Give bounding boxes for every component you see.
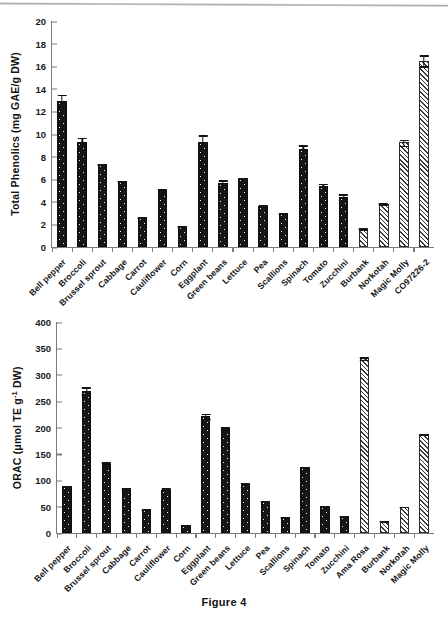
bar-cauliflower <box>158 190 167 247</box>
y-axis-tick-label: 20 <box>35 16 52 27</box>
error-bar <box>61 95 62 108</box>
bar-burbank <box>380 521 389 533</box>
x-axis-label-slot: Brussel sprout <box>91 254 111 255</box>
x-axis-label-slot: Brussel sprout <box>96 540 116 541</box>
y-axis-label-orac: ORAC (μmol TE g-1 DW) <box>10 320 24 535</box>
error-bar <box>222 180 223 188</box>
bar-bell-pepper <box>62 486 71 533</box>
x-axis-label-slot: Cabbage <box>111 254 131 255</box>
bar-slot <box>414 322 434 533</box>
error-bar <box>423 434 424 436</box>
bar-brussel-sprout <box>98 164 107 247</box>
bar-ama-rosa <box>360 358 369 533</box>
bar-co97226-2 <box>419 61 428 247</box>
bar-slot <box>394 21 414 247</box>
y-axis-tick-label: 14 <box>35 83 52 94</box>
y-axis-label-orac-suffix: DW) <box>11 366 23 391</box>
bar-slot <box>375 322 395 533</box>
y-axis-tick-label: 10 <box>35 129 52 140</box>
x-axis-label-slot: Pea <box>253 254 273 255</box>
x-axis-labels-orac: Bell pepperBroccoliBrussel sproutCabbage… <box>56 540 434 541</box>
bar-zucchini <box>339 197 348 247</box>
error-bar <box>185 525 186 526</box>
bar-slot <box>57 322 77 533</box>
error-bar <box>66 486 67 488</box>
figure-caption: Figure 4 <box>0 596 448 608</box>
x-axis-label-slot: Burbank <box>374 540 394 541</box>
error-bar <box>304 467 305 469</box>
bar-slot <box>255 322 275 533</box>
x-axis-label-slot: Norkotah <box>394 540 414 541</box>
error-bar <box>262 205 263 208</box>
bar-slot <box>97 322 117 533</box>
x-axis-label-slot: Bell pepper <box>56 540 76 541</box>
bar-series-total-phenolics <box>52 21 434 247</box>
x-axis-label-slot: Eggplant <box>195 540 215 541</box>
bar-slot <box>295 322 315 533</box>
y-axis-tick-label: 200 <box>35 422 57 433</box>
error-bar <box>86 387 87 395</box>
y-axis-tick-label: 6 <box>41 174 52 185</box>
bar-tomato <box>320 506 329 533</box>
bar-broccoli <box>77 142 86 247</box>
bar-tomato <box>319 186 328 247</box>
bar-series-orac <box>57 322 434 533</box>
y-axis-label-orac-exponent: -1 <box>10 391 19 398</box>
y-axis-tick-label: 100 <box>35 475 57 486</box>
x-axis-label-slot: Scallions <box>273 254 293 255</box>
error-bar <box>383 203 384 205</box>
bar-spinach <box>299 149 308 247</box>
y-axis-tick-label: 2 <box>41 219 52 230</box>
error-bar <box>363 228 364 231</box>
bar-slot <box>176 322 196 533</box>
x-axis-label-slot: Zucchini <box>334 540 354 541</box>
y-axis-tick-label: 0 <box>46 528 57 539</box>
bar-cauliflower <box>161 490 170 533</box>
x-axis-label-slot: Norkotah <box>374 254 394 255</box>
bar-magic-molly <box>419 434 428 533</box>
bar-slot <box>354 21 374 247</box>
bar-green-beans <box>221 428 230 533</box>
x-axis-label-slot: Cauliflower <box>155 540 175 541</box>
bar-eggplant <box>198 142 207 247</box>
bar-slot <box>117 322 137 533</box>
chart-total-phenolics: Total Phenolics (mg GAE/g DW) 0246810121… <box>0 10 448 310</box>
bar-slot <box>153 21 173 247</box>
x-axis-label-slot: Carrot <box>132 254 152 255</box>
bar-slot <box>233 21 253 247</box>
bar-broccoli <box>82 391 91 533</box>
bar-lettuce <box>241 484 250 533</box>
y-axis-tick-label: 350 <box>35 343 57 354</box>
plot-area-total-phenolics: 02468101214161820 <box>51 21 434 248</box>
y-axis-tick-label: 4 <box>41 196 52 207</box>
bar-slot <box>173 21 193 247</box>
bar-slot <box>334 21 354 247</box>
plot-area-orac: 050100150200250300350400 <box>56 322 434 534</box>
error-bar <box>106 462 107 467</box>
y-axis-tick-label: 8 <box>41 151 52 162</box>
bar-slot <box>196 322 216 533</box>
error-bar <box>122 181 123 183</box>
y-axis-tick-label: 0 <box>41 242 52 253</box>
error-bar <box>162 189 163 193</box>
bar-slot <box>52 21 72 247</box>
x-axis-label-slot: Scallions <box>275 540 295 541</box>
error-bar <box>324 506 325 507</box>
x-axis-labels-total-phenolics: Bell pepperBroccoliBrussel sproutCabbage… <box>51 254 434 255</box>
bar-slot <box>275 322 295 533</box>
y-axis-tick-label: 16 <box>35 61 52 72</box>
y-axis-label-orac-prefix: ORAC (μmol TE g <box>11 398 23 489</box>
error-bar <box>142 218 143 219</box>
x-axis-label-slot: Tomato <box>313 254 333 255</box>
bar-carrot <box>138 217 147 247</box>
x-axis-label-slot: Broccoli <box>76 540 96 541</box>
bar-slot <box>315 322 335 533</box>
x-axis-label-slot: Spinach <box>295 540 315 541</box>
y-axis-tick-label: 18 <box>35 38 52 49</box>
x-axis-label-slot: Eggplant <box>192 254 212 255</box>
bar-magic-molly <box>399 142 408 247</box>
x-axis-label-slot: Pea <box>255 540 275 541</box>
x-axis-label-slot: Burbank <box>353 254 373 255</box>
y-axis-tick-label: 12 <box>35 106 52 117</box>
error-bar <box>146 509 147 511</box>
